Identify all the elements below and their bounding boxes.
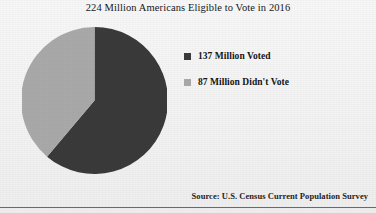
pie-svg <box>22 26 167 175</box>
legend-item-voted[interactable]: 137 Million Voted <box>184 50 370 62</box>
legend-swatch-voted <box>184 53 191 60</box>
source-note: Source: U.S. Census Current Population S… <box>192 191 368 201</box>
legend-label-didnt-vote: 87 Million Didn't Vote <box>198 77 289 87</box>
bottom-divider <box>0 207 376 208</box>
legend-label-voted: 137 Million Voted <box>198 51 271 61</box>
legend-item-didnt-vote[interactable]: 87 Million Didn't Vote <box>184 76 370 88</box>
chart-legend: 137 Million Voted 87 Million Didn't Vote <box>184 50 370 102</box>
pie-slices <box>22 27 167 174</box>
pie-chart-plot-area <box>22 26 167 175</box>
chart-title: 224 Million Americans Eligible to Vote i… <box>0 2 376 13</box>
pie-chart-figure: 224 Million Americans Eligible to Vote i… <box>0 0 376 213</box>
legend-swatch-didnt-vote <box>184 79 191 86</box>
